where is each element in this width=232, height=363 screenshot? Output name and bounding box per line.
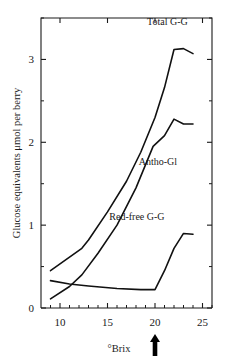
y-axis-title: Glucose equivalents μmol per berry <box>11 87 22 238</box>
data-series-lines <box>51 49 194 299</box>
x-tick-label: 25 <box>197 316 209 328</box>
y-tick-label: 1 <box>29 219 35 231</box>
y-tick-label: 3 <box>29 53 35 65</box>
y-tick-label: 0 <box>29 302 35 314</box>
brix-marker-arrow <box>150 334 160 356</box>
x-axis-ticks <box>51 18 213 308</box>
glucose-brix-line-chart: 0123 10152025 Total G-GAntho-GlRed-free … <box>0 0 232 363</box>
y-tick-label: 2 <box>29 136 35 148</box>
x-tick-label: 15 <box>102 316 114 328</box>
x-tick-label: 10 <box>55 316 67 328</box>
chart-annotations <box>150 334 160 356</box>
series-label-antho-gl: Antho-Gl <box>139 156 178 167</box>
y-axis-ticks <box>41 18 212 308</box>
series-label-red-free-g-g: Red-free G-G <box>109 211 164 222</box>
plot-box-spines <box>41 18 212 308</box>
series-label-total-g-g: Total G-G <box>147 16 188 27</box>
plot-frame <box>41 18 212 308</box>
series-line-antho-gl <box>51 119 194 299</box>
x-axis-tick-labels: 10152025 <box>55 316 209 328</box>
series-line-red-free-g-g <box>51 233 194 289</box>
y-axis-tick-labels: 0123 <box>29 53 35 314</box>
x-axis-title: °Brix <box>108 343 132 354</box>
chart-figure: 0123 10152025 Total G-GAntho-GlRed-free … <box>0 0 232 363</box>
x-tick-label: 20 <box>150 316 162 328</box>
